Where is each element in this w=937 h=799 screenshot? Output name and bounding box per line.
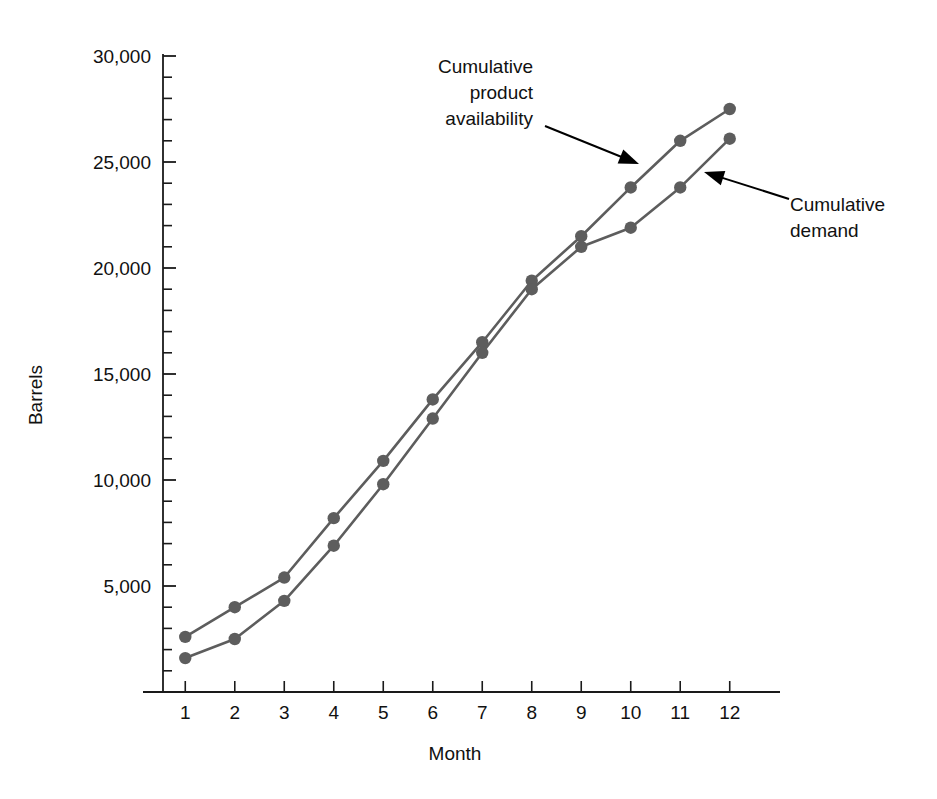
demand-annotation-line-1: Cumulative [790, 194, 885, 215]
y-axis-tick-label: 5,000 [103, 576, 151, 597]
data-point-cumulative-demand-m7[interactable] [476, 347, 488, 359]
data-point-cumulative-product-availability-m11[interactable] [674, 135, 686, 147]
data-point-cumulative-product-availability-m1[interactable] [179, 631, 191, 643]
data-point-cumulative-product-availability-m2[interactable] [229, 601, 241, 613]
y-axis-tick-label: 10,000 [93, 470, 151, 491]
data-point-cumulative-demand-m11[interactable] [674, 181, 686, 193]
data-point-cumulative-product-availability-m12[interactable] [724, 103, 736, 115]
data-point-cumulative-demand-m6[interactable] [427, 412, 439, 424]
x-axis-tick-label: 11 [670, 702, 690, 723]
data-point-cumulative-product-availability-m3[interactable] [278, 571, 290, 583]
x-axis-tick-label: 9 [576, 702, 587, 723]
x-axis-tick-label: 3 [279, 702, 290, 723]
x-axis-tick-label: 1 [180, 702, 191, 723]
x-axis-tick-label: 8 [526, 702, 537, 723]
data-point-cumulative-demand-m10[interactable] [625, 222, 637, 234]
data-point-cumulative-product-availability-m10[interactable] [625, 181, 637, 193]
data-point-cumulative-product-availability-m9[interactable] [575, 230, 587, 242]
data-point-cumulative-demand-m3[interactable] [278, 595, 290, 607]
y-axis-title: Barrels [25, 365, 46, 425]
chart-figure: 5,00010,00015,00020,00025,00030,000 1234… [0, 0, 937, 799]
y-axis-tick-label: 15,000 [93, 364, 151, 385]
availability-annotation-line-1: Cumulative [438, 56, 533, 77]
availability-annotation-line-3: availability [445, 108, 533, 129]
data-point-cumulative-demand-m2[interactable] [229, 633, 241, 645]
y-axis-tick-label: 20,000 [93, 258, 151, 279]
x-axis-tick-label: 5 [378, 702, 389, 723]
data-point-cumulative-demand-m4[interactable] [328, 540, 340, 552]
x-axis-tick-label: 2 [229, 702, 240, 723]
data-point-cumulative-demand-m5[interactable] [377, 478, 389, 490]
y-axis-tick-label: 30,000 [93, 46, 151, 67]
data-point-cumulative-product-availability-m6[interactable] [427, 393, 439, 405]
data-point-cumulative-demand-m12[interactable] [724, 132, 736, 144]
x-axis-tick-label: 12 [719, 702, 740, 723]
data-point-cumulative-product-availability-m5[interactable] [377, 455, 389, 467]
demand-annotation-line-2: demand [790, 220, 859, 241]
x-axis-tick-label: 7 [477, 702, 488, 723]
x-axis-tick-label: 4 [328, 702, 339, 723]
x-axis-tick-label: 10 [620, 702, 641, 723]
cumulative-availability-demand-line-chart: 5,00010,00015,00020,00025,00030,000 1234… [0, 0, 937, 799]
data-point-cumulative-demand-m9[interactable] [575, 241, 587, 253]
data-point-cumulative-demand-m1[interactable] [179, 652, 191, 664]
availability-annotation-line-2: product [470, 82, 534, 103]
x-axis-tick-label: 6 [427, 702, 438, 723]
x-axis-title: Month [429, 743, 482, 764]
data-point-cumulative-demand-m8[interactable] [526, 283, 538, 295]
data-point-cumulative-product-availability-m4[interactable] [328, 512, 340, 524]
y-axis-tick-label: 25,000 [93, 152, 151, 173]
